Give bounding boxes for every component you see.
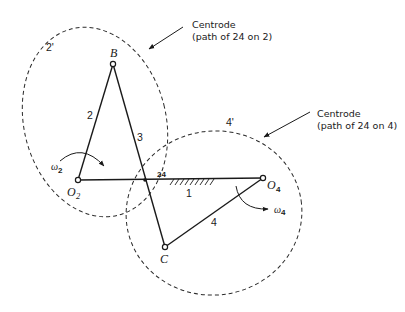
ground-hatching bbox=[170, 179, 214, 185]
point-B-label: B bbox=[110, 46, 118, 60]
point-O4-label: O bbox=[267, 178, 276, 192]
pin-O2 bbox=[75, 177, 80, 182]
centrode-4-callout-line1: Centrode bbox=[317, 108, 361, 119]
centrode-4-leader-arrow bbox=[264, 112, 310, 137]
instant-center-24-label: 24 bbox=[157, 170, 166, 179]
omega-2-rotation-arrow-icon bbox=[60, 153, 104, 166]
centrode-4-label: 4' bbox=[226, 116, 234, 128]
pin-O4 bbox=[260, 175, 265, 180]
point-C-label: C bbox=[160, 252, 169, 266]
centrode-2-label: 2' bbox=[46, 41, 54, 53]
rocker-link-4 bbox=[165, 178, 263, 247]
point-O4-subscript: 4 bbox=[276, 185, 281, 194]
link-1-label: 1 bbox=[186, 187, 192, 199]
point-O2-subscript: 2 bbox=[76, 191, 81, 201]
four-bar-centrode-diagram: Centrode (path of 24 on 2) Centrode (pat… bbox=[0, 0, 405, 312]
centrode-2-callout-line1: Centrode bbox=[192, 19, 236, 30]
centrode-2-leader-arrow bbox=[149, 27, 183, 49]
link-2-label: 2 bbox=[87, 109, 93, 121]
pin-C bbox=[162, 244, 167, 249]
coupler-link-3 bbox=[113, 64, 165, 247]
ground-link-1 bbox=[78, 178, 263, 180]
point-O2-label: O bbox=[67, 185, 76, 199]
omega-4-subscript: 4 bbox=[281, 208, 286, 217]
instant-center-24-dot bbox=[143, 178, 147, 182]
omega-2-subscript: 2 bbox=[58, 166, 63, 175]
link-3-label: 3 bbox=[137, 131, 143, 143]
crank-link-2 bbox=[78, 64, 113, 180]
omega-4-rotation-arrow-icon bbox=[236, 186, 268, 209]
centrode-4-callout-line2: (path of 24 on 4) bbox=[317, 120, 397, 131]
omega-2-label: ω bbox=[51, 161, 58, 172]
pin-B bbox=[110, 61, 115, 66]
link-4-label: 4 bbox=[211, 216, 217, 228]
omega-4-label: ω bbox=[274, 204, 281, 215]
centrode-2-callout-line2: (path of 24 on 2) bbox=[192, 31, 272, 42]
